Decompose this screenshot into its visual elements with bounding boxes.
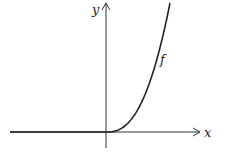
y-axis-label: y [91,2,100,17]
function-label: f [159,52,167,67]
y-axis [102,3,110,148]
x-axis-label: x [204,125,212,140]
function-graph: x y f [0,0,225,157]
function-curve [10,3,170,132]
